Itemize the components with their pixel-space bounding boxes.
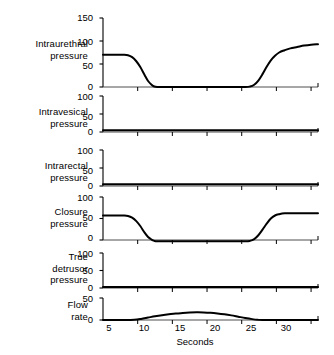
xtick-label-25: 25 xyxy=(239,323,263,333)
trace-flow-rate xyxy=(103,312,318,320)
panel-axes-0 xyxy=(100,18,319,91)
ytick-label: 100 xyxy=(58,249,93,259)
ytick-label: 50 xyxy=(58,294,93,304)
ytick-label: 0 xyxy=(58,315,93,325)
xtick-label-10: 10 xyxy=(132,323,156,333)
x-axis-title: Seconds xyxy=(140,336,250,347)
panel-axes-3 xyxy=(100,197,319,244)
ytick-label: 0 xyxy=(58,283,93,293)
trace-intraurethral-pressure xyxy=(103,44,318,87)
ytick-label: 100 xyxy=(58,193,93,203)
panel-axes-4 xyxy=(100,253,319,292)
ytick-label: 0 xyxy=(58,181,93,191)
panel-axes-2 xyxy=(100,150,319,190)
ytick-label: 50 xyxy=(58,166,93,176)
ytick-label: 50 xyxy=(58,213,93,223)
ytick-label: 100 xyxy=(58,146,93,156)
xtick-label-30: 30 xyxy=(274,323,298,333)
ytick-label: 100 xyxy=(58,37,93,47)
panel-axes-1 xyxy=(100,96,319,136)
ytick-label: 100 xyxy=(58,92,93,102)
ytick-label: 150 xyxy=(58,13,93,23)
ytick-label: 50 xyxy=(58,112,93,122)
xtick-label-20: 20 xyxy=(203,323,227,333)
xtick-label-5: 5 xyxy=(97,323,121,333)
panel-label-line: pressure xyxy=(0,50,88,62)
ytick-label: 50 xyxy=(58,61,93,71)
trace-closure-pressure xyxy=(103,213,318,241)
ytick-label: 0 xyxy=(58,127,93,137)
panel-axes-5 xyxy=(100,298,319,324)
ytick-label: 0 xyxy=(58,233,93,243)
urodynamic-study-figure: Intraurethral pressure 150 100 50 0 Intr… xyxy=(0,0,334,355)
ytick-label: 50 xyxy=(58,266,93,276)
xtick-label-15: 15 xyxy=(168,323,192,333)
